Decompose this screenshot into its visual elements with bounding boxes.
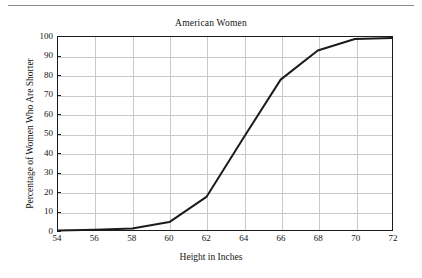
x-tick-label: 58 <box>117 233 147 244</box>
y-tick-mark <box>57 36 61 37</box>
figure-page: American Women Percentage of Women Who A… <box>0 0 422 278</box>
x-tick-label: 66 <box>266 233 296 244</box>
x-tick-label: 54 <box>42 233 72 244</box>
data-series-line <box>58 37 392 231</box>
y-tick-label: 100 <box>27 32 53 41</box>
y-axis-tick-labels: 0102030405060708090100 <box>26 36 53 231</box>
x-tick-label: 70 <box>341 233 371 244</box>
y-tick-label: 70 <box>27 90 53 99</box>
x-tick-label: 68 <box>303 233 333 244</box>
x-tick-label: 62 <box>191 233 221 244</box>
x-axis-tick-labels: 54565860626466687072 <box>57 233 393 247</box>
y-tick-label: 20 <box>27 188 53 197</box>
plot-area <box>57 36 393 231</box>
x-tick-label: 60 <box>154 233 184 244</box>
y-tick-label: 40 <box>27 149 53 158</box>
y-tick-label: 10 <box>27 207 53 216</box>
y-tick-mark <box>57 153 61 154</box>
y-tick-label: 50 <box>27 129 53 138</box>
y-tick-mark <box>57 75 61 76</box>
x-tick-label: 72 <box>378 233 408 244</box>
y-tick-mark <box>57 192 61 193</box>
y-tick-mark <box>57 212 61 213</box>
x-axis-label: Height in Inches <box>0 252 422 262</box>
y-tick-label: 80 <box>27 71 53 80</box>
y-tick-label: 90 <box>27 51 53 60</box>
series-polyline <box>58 38 392 230</box>
chart-figure: American Women Percentage of Women Who A… <box>0 0 422 278</box>
y-tick-label: 60 <box>27 110 53 119</box>
chart-title: American Women <box>0 18 422 28</box>
y-tick-mark <box>57 231 61 232</box>
x-tick-label: 56 <box>79 233 109 244</box>
y-tick-label: 30 <box>27 168 53 177</box>
y-tick-mark <box>57 56 61 57</box>
y-tick-mark <box>57 134 61 135</box>
y-tick-mark <box>57 173 61 174</box>
y-tick-mark <box>57 114 61 115</box>
x-tick-label: 64 <box>229 233 259 244</box>
y-tick-mark <box>57 95 61 96</box>
